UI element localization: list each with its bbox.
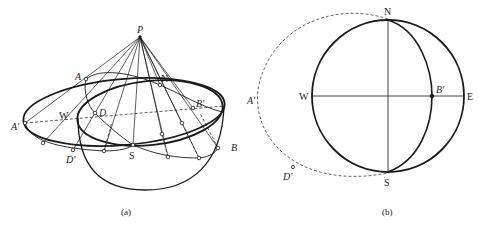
horizon-ellipse — [21, 70, 228, 153]
point-horizon-2 — [102, 149, 106, 153]
point-lower-2 — [197, 156, 201, 160]
panel-b — [257, 13, 464, 176]
points — [23, 77, 220, 160]
dashed-projected-circle — [257, 13, 388, 176]
label-B: B — [231, 142, 237, 153]
point-inner-2 — [160, 132, 164, 136]
point-B-prime — [191, 106, 195, 110]
projection-rays — [25, 37, 218, 158]
label-P: P — [136, 24, 143, 35]
point-lower-1 — [166, 155, 170, 159]
point-P — [139, 36, 141, 38]
label-E-b: E — [467, 91, 473, 102]
point-D-prime — [71, 148, 75, 152]
label-W: W — [59, 110, 69, 121]
label-D-prime-b: D' — [282, 171, 293, 182]
point-A — [84, 77, 88, 81]
label-B-prime: B' — [196, 98, 205, 109]
point-B — [216, 146, 220, 150]
label-D: D — [98, 107, 107, 118]
panel-a — [21, 36, 228, 190]
panel-b-labels: N S W E B' A' D' (b) — [246, 6, 473, 217]
label-B-prime-b: B' — [436, 84, 445, 95]
label-W-b: W — [299, 91, 309, 102]
label-A-prime-b: A' — [246, 95, 256, 106]
point-B-prime-b — [430, 94, 434, 98]
label-N-b: N — [384, 6, 391, 17]
point-D-prime-b — [291, 165, 294, 168]
stereographic-projection-figure: P A A' W D D' S N B' B (a) N S W E B' A'… — [0, 0, 479, 231]
caption-b: (b) — [382, 207, 393, 217]
point-horizon-1 — [41, 141, 45, 145]
label-D-prime: D' — [65, 154, 76, 165]
caption-a: (a) — [121, 207, 131, 217]
lower-hemisphere — [78, 106, 224, 190]
label-S: S — [129, 150, 135, 161]
label-N: N — [161, 73, 168, 84]
point-inner-1 — [180, 121, 184, 125]
point-D — [93, 111, 97, 115]
label-A-prime: A' — [10, 121, 20, 132]
label-S-b: S — [384, 177, 390, 188]
point-S — [131, 143, 135, 147]
label-A: A — [74, 71, 82, 82]
point-A-prime — [23, 121, 27, 125]
